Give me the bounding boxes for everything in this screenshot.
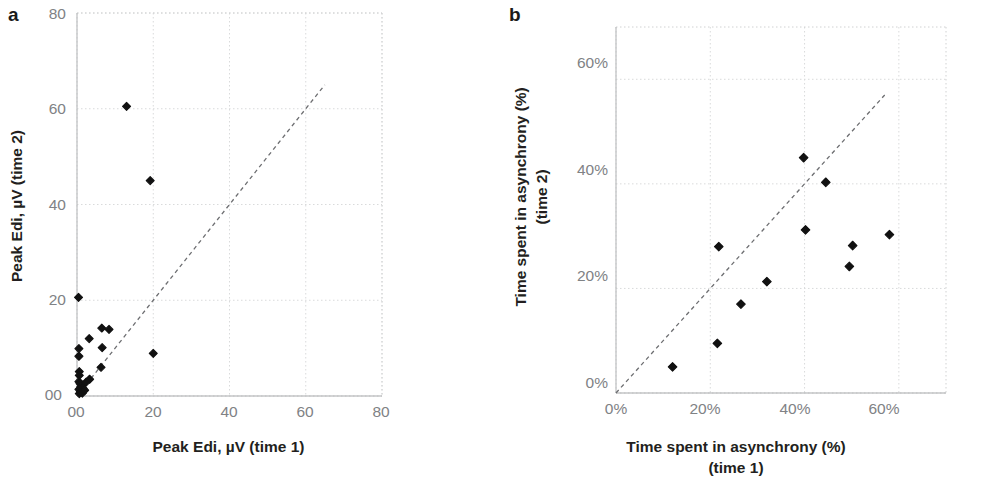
data-point — [149, 349, 157, 357]
data-point — [821, 178, 830, 187]
identity-reference-line — [616, 95, 885, 393]
figure-two-scatter-panels: a Peak Edi, µV (time 2) Peak Edi, µV (ti… — [0, 0, 982, 498]
data-point — [98, 344, 106, 352]
data-point — [714, 242, 723, 251]
data-point — [75, 352, 83, 360]
data-point — [668, 363, 677, 372]
data-points — [668, 153, 893, 371]
data-point — [799, 153, 808, 162]
data-point — [713, 339, 722, 348]
data-point — [763, 277, 772, 286]
data-point — [801, 226, 810, 235]
data-points — [75, 102, 158, 397]
data-point — [885, 230, 894, 239]
data-point — [105, 325, 113, 333]
data-point — [98, 324, 106, 332]
panel-b: b Time spent in asynchrony (%) (time 2) … — [491, 0, 982, 498]
panel-b-plot-area — [491, 0, 982, 498]
identity-reference-line — [77, 85, 325, 396]
data-point — [737, 300, 746, 309]
data-point — [75, 345, 83, 353]
data-point — [848, 241, 857, 250]
panel-a: a Peak Edi, µV (time 2) Peak Edi, µV (ti… — [0, 0, 491, 498]
gridlines — [77, 13, 382, 396]
data-point — [85, 335, 93, 343]
panel-a-plot-area — [0, 0, 491, 498]
data-point — [845, 262, 854, 271]
